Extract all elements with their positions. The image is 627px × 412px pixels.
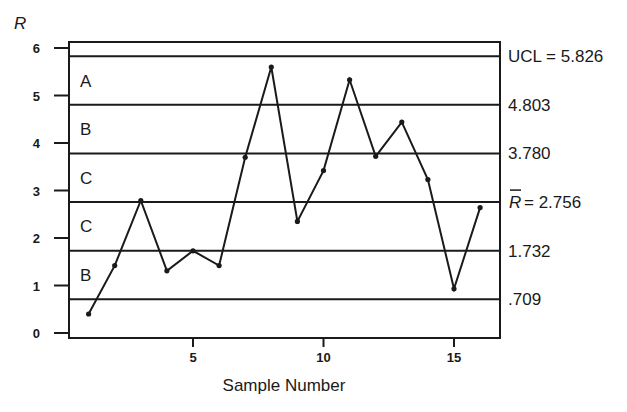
zone-boundary-label: .709 [508, 290, 541, 309]
zone-label-c: C [80, 169, 92, 188]
zone-labels: ABCCB [80, 72, 92, 285]
data-point [138, 198, 143, 203]
ucl-label: UCL = 5.826 [508, 47, 603, 66]
center-line-label: R= 2.756 [509, 190, 581, 212]
data-point [295, 219, 300, 224]
data-point [451, 286, 456, 291]
zone-boundary-label: 3.780 [508, 144, 551, 163]
zone-label-b: B [80, 266, 91, 285]
y-tick-label: 0 [33, 326, 40, 341]
y-tick-label: 5 [33, 89, 40, 104]
y-tick-label: 1 [33, 279, 40, 294]
control-limit-lines [69, 56, 500, 299]
data-point [425, 177, 430, 182]
data-point [478, 205, 483, 210]
svg-text:R: R [509, 193, 521, 212]
data-point [373, 154, 378, 159]
data-point [217, 263, 222, 268]
data-point [86, 311, 91, 316]
y-tick-label: 4 [33, 136, 41, 151]
data-point [243, 155, 248, 160]
x-tick-label: 5 [189, 350, 196, 365]
x-axis-ticks: 51015 [189, 338, 461, 365]
y-axis-title: R [14, 14, 26, 33]
data-point [190, 248, 195, 253]
plot-frame [69, 42, 500, 338]
data-point [321, 168, 326, 173]
y-axis-ticks: 0123456 [33, 41, 69, 341]
data-points [86, 64, 483, 316]
data-point [347, 77, 352, 82]
control-limit-labels: UCL = 5.8264.8033.780R= 2.7561.732.709 [508, 47, 603, 309]
x-tick-label: 10 [316, 350, 330, 365]
zone-label-a: A [80, 72, 92, 91]
data-point [164, 268, 169, 273]
y-tick-label: 6 [33, 41, 40, 56]
data-point [269, 64, 274, 69]
zone-boundary-label: 1.732 [508, 242, 551, 261]
zone-boundary-label: 4.803 [508, 96, 551, 115]
y-tick-label: 3 [33, 184, 40, 199]
data-point [112, 263, 117, 268]
x-tick-label: 15 [447, 350, 461, 365]
control-chart: 0123456 51015 ABCCB UCL = 5.8264.8033.78… [0, 0, 627, 412]
y-tick-label: 2 [33, 231, 40, 246]
zone-label-b: B [80, 120, 91, 139]
x-axis-title: Sample Number [223, 376, 346, 395]
svg-text:= 2.756: = 2.756 [524, 193, 581, 212]
data-point [399, 120, 404, 125]
zone-label-c: C [80, 217, 92, 236]
